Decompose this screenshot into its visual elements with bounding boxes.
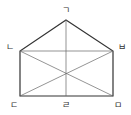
pentagon-diagram [0,0,131,115]
label-n: ㄴ [6,43,14,52]
label-r: ㄹ [62,101,70,110]
label-g: ㄱ [62,6,70,15]
label-b: ㅂ [118,43,126,52]
label-m: ㅁ [114,101,122,110]
label-d: ㄷ [10,101,18,110]
